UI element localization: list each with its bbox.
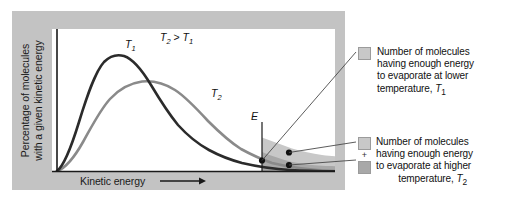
legend-item-higher-temperature: + Number of molecules having enough ener…	[357, 136, 473, 188]
legend-swatch-dark-2	[358, 161, 371, 174]
x-axis-label: Kinetic energy	[80, 175, 145, 187]
figure-root: Percentage of molecules with a given kin…	[0, 0, 507, 202]
curve-label-t1-sub: 1	[131, 44, 135, 53]
legend-label-2-text: Number of molecules having enough energy…	[376, 136, 473, 171]
legend-swatches-1	[357, 46, 372, 60]
annotation-temperature-relation: T2 > T1	[160, 31, 193, 46]
annotation-relation-left-sub: 2	[166, 37, 170, 46]
legend-label-2-lastline-text: temperature,	[398, 173, 456, 184]
legend-plus-sign: +	[362, 151, 367, 160]
legend-swatches-2: +	[357, 136, 372, 174]
legend-swatch-light-2	[358, 137, 371, 150]
curve-label-t1: T1	[125, 38, 136, 53]
legend-label-1-sub: 1	[441, 87, 446, 97]
legend-label-2-lastline: temperature, T2	[376, 173, 473, 188]
curve-label-t2-sub: 2	[217, 93, 221, 102]
legend-swatch-light-1	[358, 47, 371, 60]
curve-label-t2: T2	[211, 87, 222, 102]
legend-label-2: Number of molecules having enough energy…	[376, 136, 473, 188]
legend-label-2-sub: 2	[462, 177, 467, 187]
annotation-relation-right-sub: 1	[189, 37, 193, 46]
threshold-label-e: E	[251, 110, 258, 122]
annotation-relation-operator: >	[174, 31, 180, 43]
legend-item-lower-temperature: Number of molecules having enough energy…	[357, 46, 474, 98]
plot-area	[52, 29, 335, 172]
legend-label-1-text: Number of molecules having enough energy…	[377, 46, 474, 94]
legend-label-1: Number of molecules having enough energy…	[377, 46, 474, 98]
